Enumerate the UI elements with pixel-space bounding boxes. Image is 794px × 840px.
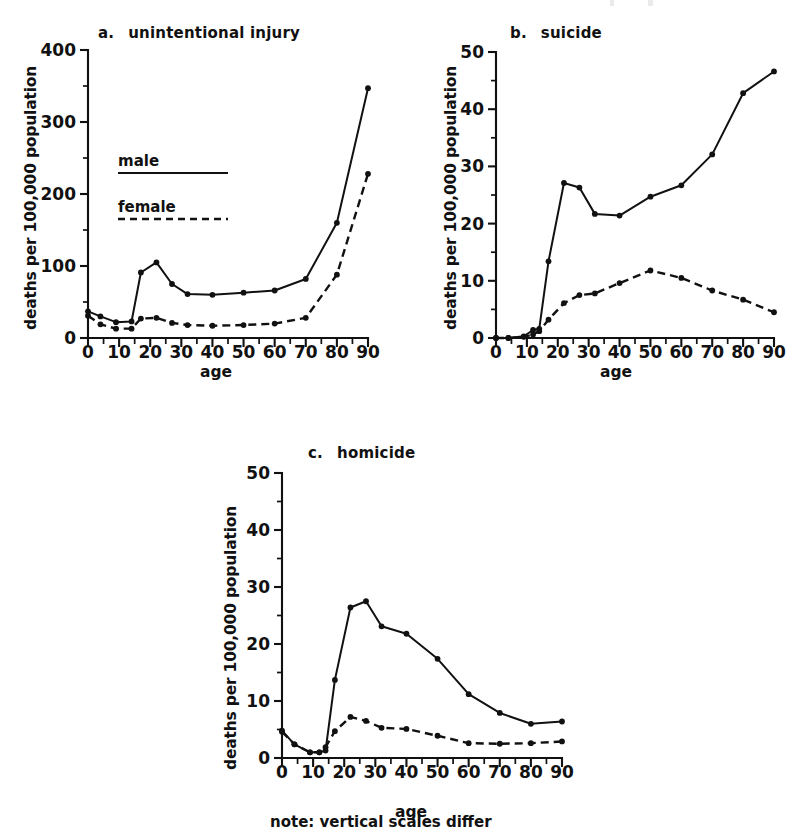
data-point-female	[379, 725, 385, 731]
data-point-male	[771, 69, 777, 75]
data-point-male	[129, 319, 135, 325]
data-point-female	[709, 288, 715, 294]
figure-root: a.unintentional injury deaths per 100,00…	[0, 0, 794, 840]
data-point-male	[363, 598, 369, 604]
data-point-male	[709, 151, 715, 157]
panel-c-plot: 010203040500102030405060708090	[190, 420, 610, 840]
x-tick-label: 20	[138, 342, 162, 362]
data-point-male	[561, 180, 567, 186]
x-tick-label: 60	[457, 762, 481, 782]
data-point-male	[577, 185, 583, 191]
data-point-female	[303, 315, 309, 321]
data-point-female	[559, 739, 565, 745]
data-point-male	[348, 605, 354, 611]
y-tick-label: 0	[64, 328, 76, 348]
data-point-male	[466, 691, 472, 697]
data-point-female	[210, 323, 216, 329]
y-tick-label: 400	[41, 40, 77, 60]
x-tick-label: 20	[332, 762, 356, 782]
data-point-female	[334, 272, 340, 278]
data-point-female	[561, 300, 567, 306]
legend-label-female: female	[118, 198, 176, 216]
data-point-male	[334, 220, 340, 226]
series-line-male	[496, 71, 774, 338]
data-point-female	[521, 334, 527, 340]
data-point-female	[404, 726, 410, 732]
data-point-female	[365, 171, 371, 177]
panel-a-letter: a.	[98, 24, 114, 42]
panel-c-ylabel: deaths per 100,000 population	[222, 506, 240, 770]
data-point-female	[435, 733, 441, 739]
data-point-male	[210, 292, 216, 298]
panel-b-ylabel: deaths per 100,000 population	[442, 66, 460, 330]
x-tick-label: 60	[263, 342, 287, 362]
data-point-female	[154, 315, 160, 321]
data-point-male	[98, 314, 104, 320]
data-point-female	[740, 297, 746, 303]
data-point-female	[332, 728, 338, 734]
x-tick-label: 90	[762, 342, 786, 362]
data-point-female	[617, 280, 623, 286]
y-tick-label: 30	[460, 156, 484, 176]
x-tick-label: 70	[488, 762, 512, 782]
x-tick-label: 80	[519, 762, 543, 782]
data-point-male	[332, 677, 338, 683]
data-point-male	[379, 623, 385, 629]
data-point-female	[272, 321, 278, 327]
data-point-male	[435, 656, 441, 662]
panel-a-unintentional-injury: a.unintentional injury deaths per 100,00…	[0, 0, 400, 400]
x-tick-label: 40	[608, 342, 632, 362]
x-tick-label: 90	[550, 762, 574, 782]
panel-c-title-text: homicide	[337, 444, 415, 462]
x-tick-label: 0	[490, 342, 502, 362]
data-point-female	[528, 740, 534, 746]
figure-note: note: vertical scales differ	[270, 813, 492, 831]
data-point-female	[307, 749, 313, 755]
panel-b-title: b.suicide	[510, 24, 602, 42]
panel-a-title-text: unintentional injury	[128, 24, 300, 42]
x-tick-label: 80	[731, 342, 755, 362]
data-point-male	[404, 631, 410, 637]
data-point-female	[771, 309, 777, 315]
data-point-male	[678, 182, 684, 188]
data-point-female	[138, 316, 144, 322]
data-point-female	[85, 313, 91, 319]
y-tick-label: 40	[460, 99, 484, 119]
x-tick-label: 0	[82, 342, 94, 362]
data-point-male	[740, 90, 746, 96]
y-tick-label: 50	[460, 42, 484, 62]
panel-c-homicide: c.homicide deaths per 100,000 population…	[190, 420, 610, 840]
data-point-male	[303, 276, 309, 282]
data-point-female	[363, 718, 369, 724]
data-point-male	[138, 270, 144, 276]
panel-b-xlabel: age	[600, 363, 632, 381]
data-point-female	[348, 714, 354, 720]
x-tick-label: 70	[294, 342, 318, 362]
data-point-female	[530, 332, 536, 338]
data-point-female	[241, 322, 247, 328]
panel-a-plot: 01002003004000102030405060708090malefema…	[0, 0, 400, 400]
x-tick-label: 20	[546, 342, 570, 362]
data-point-male	[528, 721, 534, 727]
data-point-male	[365, 85, 371, 91]
x-tick-label: 40	[201, 342, 225, 362]
data-point-female	[577, 292, 583, 298]
panel-c-letter: c.	[308, 444, 323, 462]
data-point-male	[154, 260, 160, 266]
panel-b-suicide: b.suicide deaths per 100,000 population …	[400, 0, 794, 400]
y-tick-label: 0	[472, 328, 484, 348]
panel-a-ylabel: deaths per 100,000 population	[22, 66, 40, 330]
panel-a-title: a.unintentional injury	[98, 24, 300, 42]
y-tick-label: 100	[41, 256, 77, 276]
data-point-male	[497, 710, 503, 716]
data-point-female	[678, 275, 684, 281]
data-point-female	[466, 740, 472, 746]
y-tick-label: 0	[258, 748, 270, 768]
data-point-male	[272, 288, 278, 294]
data-point-male	[546, 258, 552, 264]
data-point-female	[292, 741, 298, 747]
x-tick-label: 30	[363, 762, 387, 782]
x-tick-label: 30	[169, 342, 193, 362]
x-tick-label: 90	[356, 342, 380, 362]
data-point-female	[185, 322, 191, 328]
